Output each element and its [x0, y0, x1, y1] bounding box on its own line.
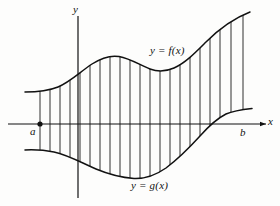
curve-label-f: y = f(x)	[150, 45, 185, 56]
region-hatching	[40, 0, 243, 206]
x-axis-arrow-icon	[260, 122, 266, 126]
diagram-canvas	[0, 0, 280, 206]
upper-curve-f	[25, 12, 250, 92]
upper-bound-label-b: b	[240, 127, 246, 138]
curve-label-g: y = g(x)	[131, 180, 168, 191]
lower-curve-g	[25, 109, 252, 179]
x-axis-label: x	[268, 116, 273, 127]
area-between-curves-diagram: y x a b y = f(x) y = g(x)	[0, 0, 280, 206]
lower-bound-label-a: a	[30, 126, 36, 137]
boundary-point-a	[37, 121, 42, 126]
y-axis-label: y	[73, 4, 78, 15]
